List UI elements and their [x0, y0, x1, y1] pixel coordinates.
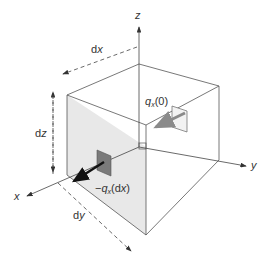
dx-label: dx: [91, 44, 103, 55]
inflow-flux-label: qx(0): [145, 96, 168, 108]
y-axis: [139, 147, 246, 166]
dz-label: dz: [35, 128, 47, 139]
y-axis-label: y: [251, 160, 257, 171]
dy-label: dy: [73, 210, 85, 221]
outflow-flux-label: −qx(dx): [95, 183, 130, 195]
control-volume-diagram: z y x dx dz dy qx(0) −qx(dx): [0, 0, 267, 267]
x-axis-label: x: [14, 191, 20, 202]
z-axis-label: z: [135, 10, 141, 21]
